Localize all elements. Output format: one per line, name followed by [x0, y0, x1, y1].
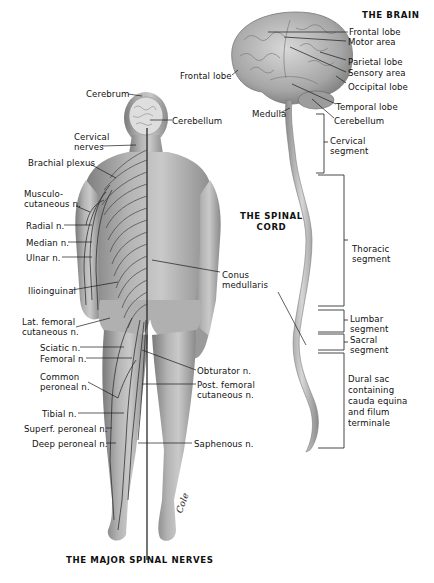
- label-deep-peroneal: Deep peroneal n.: [32, 439, 108, 449]
- label-superf-peroneal: Superf. peroneal n.: [24, 424, 108, 434]
- label-femoral: Femoral n.: [40, 354, 87, 364]
- label-post-femoral-cutaneous: Post. femoral cutaneous n.: [197, 380, 255, 400]
- label-cerebellum-body: Cerebellum: [172, 116, 222, 126]
- body-figure: [75, 92, 220, 560]
- spinal-cord-title: THE SPINAL CORD: [240, 211, 303, 233]
- label-temporal-lobe: Temporal lobe: [336, 102, 398, 112]
- label-dural-sac: Dural sac containing cauda equina and fi…: [348, 374, 407, 429]
- label-frontal-lobe-brain: Frontal lobe: [349, 27, 401, 37]
- label-thoracic-segment: Thoracic segment: [352, 244, 390, 264]
- label-radial: Radial n.: [26, 221, 64, 231]
- label-brachial-plexus: Brachial plexus: [28, 158, 95, 168]
- label-frontal-lobe-left: Frontal lobe: [180, 71, 232, 81]
- label-saphenous: Saphenous n.: [194, 439, 254, 449]
- label-lumbar-segment: Lumbar segment: [350, 314, 388, 334]
- label-tibial: Tibial n.: [42, 409, 77, 419]
- label-ilioinguinal: Ilioinguinal: [28, 286, 76, 296]
- label-sensory-area: Sensory area: [348, 68, 406, 78]
- segment-brackets: [316, 114, 348, 448]
- brain-title: THE BRAIN: [362, 10, 420, 21]
- label-conus-medullaris: Conus medullaris: [222, 270, 268, 290]
- label-ulnar: Ulnar n.: [26, 253, 61, 263]
- label-obturator: Obturator n.: [197, 366, 251, 376]
- label-common-peroneal: Common peroneal n.: [40, 372, 90, 392]
- label-cervical-nerves: Cervical nerves: [74, 132, 109, 152]
- label-sacral-segment: Sacral segment: [350, 335, 388, 355]
- label-cerebellum-brain: Cerebellum: [334, 116, 384, 126]
- label-cerebrum: Cerebrum: [86, 89, 130, 99]
- label-median: Median n.: [26, 238, 69, 248]
- major-nerves-title: THE MAJOR SPINAL NERVES: [66, 555, 213, 566]
- label-lat-femoral-cutaneous: Lat. femoral cutaneous n.: [22, 317, 79, 337]
- label-parietal-lobe: Parietal lobe: [348, 57, 403, 67]
- label-occipital-lobe: Occipital lobe: [348, 82, 408, 92]
- label-motor-area: Motor area: [348, 37, 396, 47]
- label-medulla: Medulla: [252, 109, 286, 119]
- label-musculocutaneous: Musculo- cutaneous n.: [24, 189, 81, 209]
- label-sciatic: Sciatic n.: [40, 343, 80, 353]
- label-cervical-segment: Cervical segment: [330, 136, 368, 156]
